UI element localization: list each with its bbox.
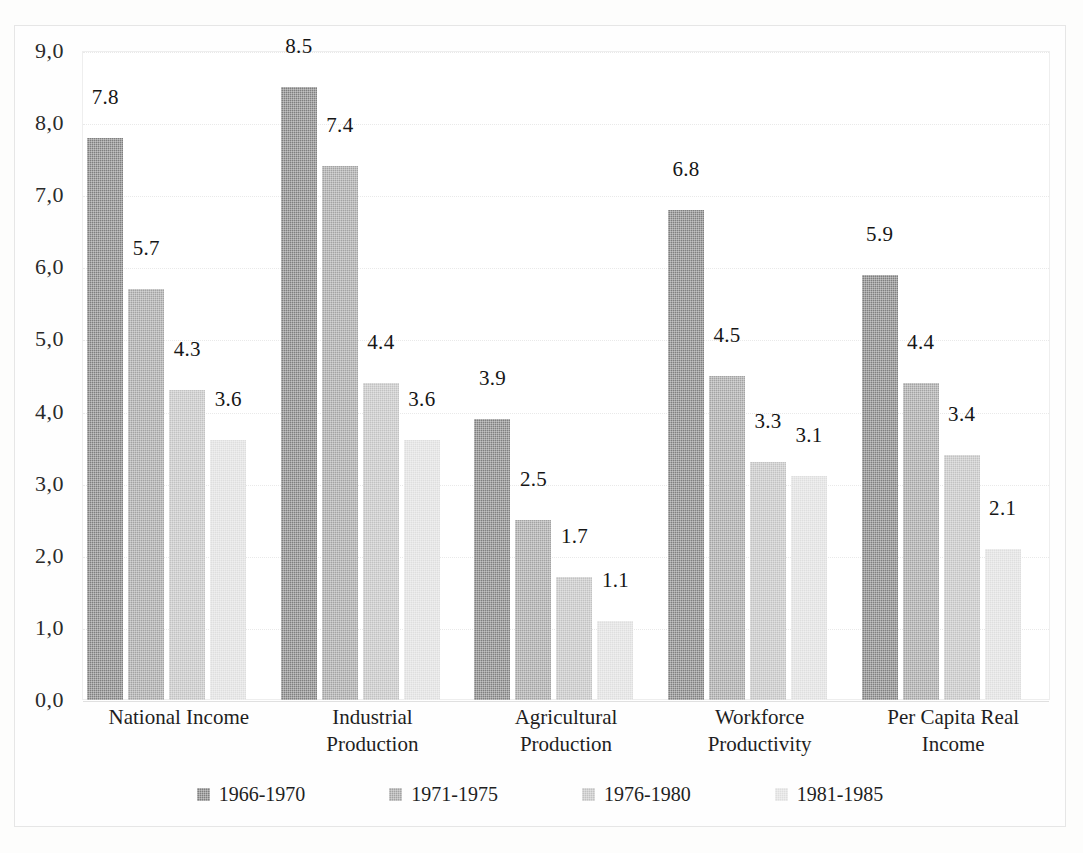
bar[interactable]: 1.7	[556, 577, 592, 700]
bar[interactable]: 4.4	[903, 383, 939, 700]
x-axis-category-label: Agricultural Production	[469, 704, 663, 758]
bar-rect	[709, 376, 745, 701]
bar-value-label: 2.5	[520, 467, 547, 492]
legend-swatch-icon	[582, 788, 595, 801]
x-axis-category-label: Per Capita Real Income	[856, 704, 1050, 758]
bar-value-label: 3.3	[755, 409, 782, 434]
bar-rect	[668, 210, 704, 700]
x-axis-category-label: Workforce Productivity	[663, 704, 857, 758]
bar[interactable]: 7.8	[87, 138, 123, 700]
legend-item[interactable]: 1966-1970	[197, 783, 306, 806]
legend-swatch-icon	[389, 788, 402, 801]
bar-value-label: 3.6	[215, 387, 242, 412]
bar-rect	[597, 621, 633, 700]
bar-value-label: 4.3	[174, 337, 201, 362]
x-axis-category-label: National Income	[82, 704, 276, 731]
y-axis-tick-label: 2,0	[35, 543, 64, 569]
bar-rect	[556, 577, 592, 700]
y-axis-tick-label: 1,0	[35, 615, 64, 641]
bar-value-label: 8.5	[285, 34, 312, 59]
bar-rect	[128, 289, 164, 700]
x-axis-category-labels: National IncomeIndustrial ProductionAgri…	[82, 704, 1050, 766]
x-axis-category-label: Industrial Production	[276, 704, 470, 758]
y-axis-tick-label: 3,0	[35, 471, 64, 497]
bar-group: 7.85.74.33.6	[82, 51, 276, 700]
scanned-figure: 0,01,02,03,04,05,06,07,08,09,0 7.85.74.3…	[0, 0, 1083, 853]
y-axis-tick-label: 0,0	[35, 687, 64, 713]
bar-value-label: 5.9	[866, 222, 893, 247]
bar-value-label: 2.1	[989, 496, 1016, 521]
bar-value-label: 4.5	[714, 323, 741, 348]
bars-layer: 7.85.74.33.68.57.44.43.63.92.51.71.16.84…	[82, 51, 1050, 700]
bar[interactable]: 7.4	[322, 166, 358, 700]
y-axis-tick-label: 7,0	[35, 182, 64, 208]
bar[interactable]: 2.1	[985, 549, 1021, 700]
legend-swatch-icon	[197, 788, 210, 801]
bar-rect	[750, 462, 786, 700]
y-axis-tick-label: 8,0	[35, 110, 64, 136]
bar-value-label: 7.8	[92, 85, 119, 110]
y-axis-tick-label: 5,0	[35, 326, 64, 352]
bar[interactable]: 8.5	[281, 87, 317, 700]
legend-label: 1971-1975	[411, 783, 498, 806]
bar-rect	[903, 383, 939, 700]
y-axis-tick-label: 6,0	[35, 254, 64, 280]
y-axis-tick-label: 9,0	[35, 38, 64, 64]
bar[interactable]: 1.1	[597, 621, 633, 700]
bar-rect	[791, 476, 827, 700]
bar-value-label: 3.4	[948, 402, 975, 427]
bar-group: 8.57.44.43.6	[276, 51, 470, 700]
legend-item[interactable]: 1971-1975	[389, 783, 498, 806]
bar[interactable]: 3.6	[210, 440, 246, 700]
legend-swatch-icon	[775, 788, 788, 801]
bar-rect	[322, 166, 358, 700]
bar[interactable]: 4.5	[709, 376, 745, 701]
bar-value-label: 7.4	[326, 113, 353, 138]
legend-item[interactable]: 1981-1985	[775, 783, 884, 806]
bar-group: 3.92.51.71.1	[469, 51, 663, 700]
bar-group: 6.84.53.33.1	[663, 51, 857, 700]
bar-rect	[404, 440, 440, 700]
legend-label: 1981-1985	[797, 783, 884, 806]
bar-value-label: 4.4	[367, 330, 394, 355]
chart-legend: 1966-19701971-19751976-19801981-1985	[14, 783, 1066, 806]
legend-label: 1976-1980	[604, 783, 691, 806]
bar-rect	[515, 520, 551, 700]
bar-value-label: 4.4	[907, 330, 934, 355]
bar-value-label: 3.6	[408, 387, 435, 412]
bar[interactable]: 3.1	[791, 476, 827, 700]
y-axis: 0,01,02,03,04,05,06,07,08,09,0	[0, 51, 74, 700]
bar-value-label: 5.7	[133, 236, 160, 261]
gridline-0	[83, 701, 1049, 702]
bar[interactable]: 3.6	[404, 440, 440, 700]
bar[interactable]: 3.9	[474, 419, 510, 700]
legend-item[interactable]: 1976-1980	[582, 783, 691, 806]
bar-rect	[87, 138, 123, 700]
bar[interactable]: 2.5	[515, 520, 551, 700]
legend-label: 1966-1970	[219, 783, 306, 806]
bar-rect	[363, 383, 399, 700]
bar-value-label: 3.9	[479, 366, 506, 391]
bar-value-label: 3.1	[796, 423, 823, 448]
bar[interactable]: 4.3	[169, 390, 205, 700]
bar[interactable]: 3.3	[750, 462, 786, 700]
bar[interactable]: 5.7	[128, 289, 164, 700]
bar-rect	[281, 87, 317, 700]
bar[interactable]: 5.9	[862, 275, 898, 700]
y-axis-tick-label: 4,0	[35, 399, 64, 425]
bar[interactable]: 6.8	[668, 210, 704, 700]
bar-value-label: 6.8	[673, 157, 700, 182]
bar-group: 5.94.43.42.1	[856, 51, 1050, 700]
bar-value-label: 1.7	[561, 524, 588, 549]
bar-value-label: 1.1	[602, 568, 629, 593]
bar-rect	[474, 419, 510, 700]
bar-rect	[985, 549, 1021, 700]
bar[interactable]: 3.4	[944, 455, 980, 700]
bar[interactable]: 4.4	[363, 383, 399, 700]
bar-rect	[210, 440, 246, 700]
bar-rect	[944, 455, 980, 700]
bar-rect	[169, 390, 205, 700]
bar-rect	[862, 275, 898, 700]
